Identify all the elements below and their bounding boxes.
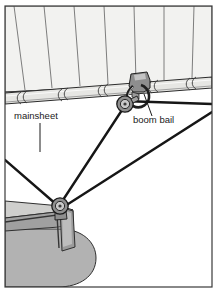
label-boom-bail: boom bail — [133, 114, 174, 125]
hull-body — [5, 229, 96, 287]
upper-block-axle — [123, 102, 126, 105]
figure-root: mainsheet boom bail — [0, 0, 221, 294]
sailboat-rigging-illustration: mainsheet boom bail — [0, 0, 221, 294]
lower-block-axle — [58, 204, 61, 207]
label-mainsheet: mainsheet — [14, 110, 58, 121]
